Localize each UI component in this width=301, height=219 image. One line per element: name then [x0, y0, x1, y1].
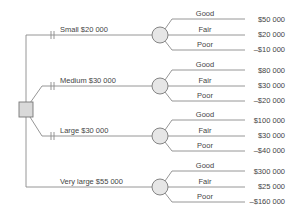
- outcome-label: Good: [185, 110, 225, 119]
- payoff-value: –$20 000: [254, 96, 285, 105]
- outcome-label: Poor: [185, 141, 225, 150]
- option-label-large: Large $30 000: [60, 126, 108, 135]
- payoff-value: $25 000: [258, 182, 285, 191]
- outcome-label: Poor: [185, 192, 225, 201]
- chance-node-large: [152, 128, 168, 144]
- payoff-value: $100 000: [254, 116, 285, 125]
- branch-line-medium: [30, 86, 152, 103]
- payoff-value: $30 000: [258, 81, 285, 90]
- payoff-value: $300 000: [254, 167, 285, 176]
- outcome-label: Poor: [185, 40, 225, 49]
- option-label-very-large: Very large $55 000: [60, 177, 123, 186]
- outcome-label: Good: [185, 161, 225, 170]
- outcome-label: Fair: [185, 177, 225, 186]
- payoff-value: $20 000: [258, 30, 285, 39]
- decision-node: [19, 102, 33, 117]
- payoff-value: –$40 000: [254, 146, 285, 155]
- payoff-value: $80 000: [258, 66, 285, 75]
- payoff-value: –$10 000: [254, 45, 285, 54]
- outcome-label: Fair: [185, 76, 225, 85]
- payoff-value: –$160 000: [250, 197, 285, 206]
- payoff-value: $30 000: [258, 131, 285, 140]
- outcome-label: Good: [185, 9, 225, 18]
- outcome-label: Fair: [185, 25, 225, 34]
- outcome-label: Fair: [185, 126, 225, 135]
- decision-tree-canvas: [0, 0, 301, 219]
- outcome-label: Poor: [185, 91, 225, 100]
- payoff-value: $50 000: [258, 15, 285, 24]
- chance-node-very-large: [152, 179, 168, 195]
- chance-node-small: [152, 27, 168, 43]
- option-label-medium: Medium $30 000: [60, 76, 116, 85]
- chance-node-medium: [152, 78, 168, 94]
- option-label-small: Small $20 000: [60, 25, 108, 34]
- outcome-label: Good: [185, 60, 225, 69]
